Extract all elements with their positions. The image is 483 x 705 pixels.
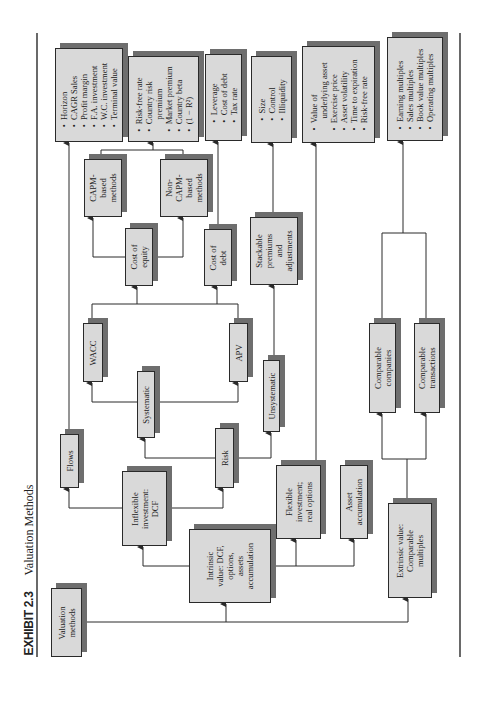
- node-valuation-methods: Valuationmethods: [51, 588, 82, 657]
- node-wacc: WACC: [83, 323, 103, 382]
- exhibit-title: EXHIBIT 2.3 Valuation Methods: [16, 480, 40, 660]
- node-comparable-companies: Comparablecompanies: [369, 323, 396, 413]
- node-capm-based-methods: CAPM-basedmethods: [84, 159, 122, 217]
- list-multiples: Earning multiples Sales multiples Book v…: [387, 37, 443, 141]
- node-inflexible-investment: Inflexibleinvestment:DCF: [122, 471, 167, 546]
- valuation-methods-diagram: EXHIBIT 2.3 Valuation Methods Valuationm…: [0, 0, 483, 705]
- exhibit-number: EXHIBIT 2.3: [22, 591, 36, 655]
- list-option-inputs: Value of underlying asset Exercise price…: [302, 46, 375, 143]
- node-cost-of-equity: Cost ofequity: [125, 228, 153, 286]
- list-premium-inputs: Size Control Illiquidity: [251, 56, 292, 143]
- node-cost-of-debt: Cost ofdebt: [204, 229, 232, 286]
- node-non-capm-based-methods: Non-CAPM-basedmethods: [160, 159, 208, 217]
- node-apv: APV: [229, 323, 248, 382]
- node-stackable-premiums: Stackablepremiumsandadjustments: [250, 217, 298, 285]
- node-comparable-transactions: Comparabletransactions: [414, 323, 440, 413]
- exhibit-caption: Valuation Methods: [22, 484, 36, 575]
- list-equity-inputs: Risk-free rate Country risk premium Mark…: [128, 56, 199, 142]
- node-unsystematic: Unsystematic: [263, 360, 280, 432]
- node-flexible-investment: Flexibleinvestment;real options: [276, 465, 321, 539]
- node-extrinsic-value: Extrinsic value:Comparablemultiples: [388, 503, 432, 598]
- node-flows: Flows: [60, 434, 79, 488]
- node-intrinsic-value: Intrinsicvalue: DCF,options,assetsaccumu…: [189, 529, 271, 603]
- node-systematic: Systematic: [137, 371, 155, 438]
- node-risk: Risk: [215, 428, 234, 488]
- list-debt-inputs: Leverage Cost of debt Tax rate: [205, 54, 242, 141]
- list-flows-inputs: Horizon CAGR Sales Profit margin F.A. in…: [55, 48, 123, 142]
- node-asset-accumulation: Assetaccumulation: [340, 465, 368, 539]
